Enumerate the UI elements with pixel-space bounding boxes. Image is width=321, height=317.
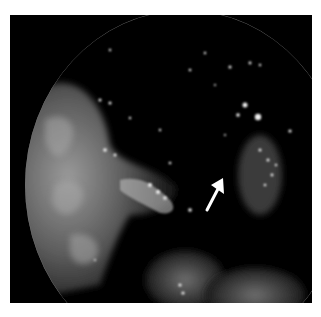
endoscopic-image <box>10 15 312 303</box>
tissue-right <box>238 135 282 215</box>
field-of-view <box>10 15 312 303</box>
endoscopic-image-canvas <box>10 15 312 303</box>
arrow-annotation <box>207 178 224 210</box>
